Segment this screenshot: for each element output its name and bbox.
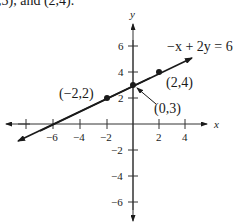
- y-tick-label: 4: [118, 66, 124, 78]
- y-tick-label: −6: [111, 196, 123, 208]
- point-neg2-2: [104, 95, 110, 101]
- x-tick-label: −6: [46, 131, 58, 143]
- x-tick-label: 2: [156, 131, 162, 143]
- x-axis-label: x: [213, 118, 219, 130]
- x-tick-label: 4: [182, 131, 188, 143]
- x-tick-label: −2: [100, 131, 112, 143]
- point-2-4: [156, 69, 162, 75]
- annotation-arrow: [137, 88, 156, 104]
- point-0-3: [130, 82, 136, 88]
- point-label: (0,3): [154, 101, 181, 117]
- y-tick-label: −4: [111, 170, 123, 182]
- x-tick-label: −4: [73, 131, 85, 143]
- y-tick-label: −2: [111, 144, 123, 156]
- equation-label: −x + 2y = 6: [167, 39, 233, 54]
- y-tick-label: 6: [118, 40, 124, 52]
- point-label: (−2,2): [59, 86, 94, 102]
- y-axis: 6 4 2 −2 −4 −6 y: [111, 8, 138, 221]
- point-label: (2,4): [166, 75, 193, 91]
- graph: −6 −4 −2 2 4 x 6 4 2 −2 −4 −6 y: [0, 0, 235, 224]
- x-axis: −6 −4 −2 2 4 x: [6, 118, 219, 143]
- y-axis-label: y: [129, 8, 135, 20]
